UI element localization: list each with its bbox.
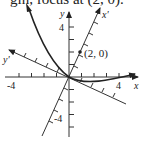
parabola-curve (29, 9, 135, 82)
parabola-arrow-top (26, 3, 32, 12)
x-axis (5, 73, 138, 77)
x-axis-label: x (133, 80, 139, 91)
focus-label: (2, 0) (84, 47, 108, 60)
x-tick-label-4: 4 (116, 80, 121, 91)
y-tick-label-neg4: -4 (54, 113, 62, 124)
x-prime-axis-label: x' (101, 9, 109, 20)
focus-point (78, 50, 82, 54)
parabola-diagram: (2, 0) y x x' y' 4 -4 -4 4 (0, 0, 143, 141)
y-prime-axis-label: y' (2, 54, 10, 65)
y-axis-label: y (59, 8, 65, 19)
x-tick-label-neg4: -4 (7, 80, 15, 91)
y-tick-label-4: 4 (59, 22, 64, 33)
